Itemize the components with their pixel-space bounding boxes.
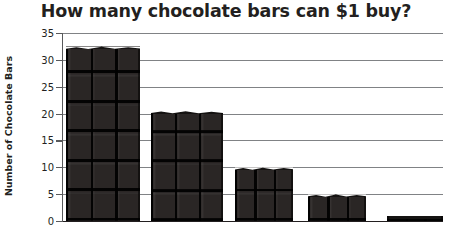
y-axis-label: Number of Chocolate Bars: [3, 56, 14, 196]
plot-area: [63, 33, 443, 221]
y-tick-mark: [56, 33, 63, 34]
y-tick-mark: [56, 167, 63, 168]
bar-right-edge: [138, 46, 140, 221]
chart-title: How many chocolate bars can $1 buy?: [0, 1, 452, 21]
bar-left-edge: [387, 216, 389, 221]
y-tick-mark: [56, 60, 63, 61]
chocolate-texture: [235, 167, 293, 221]
bar-2: [151, 111, 223, 221]
y-tick-label: 20: [14, 108, 54, 119]
y-tick-label: 0: [14, 216, 54, 226]
y-tick-label: 30: [14, 54, 54, 65]
bar-right-edge: [291, 167, 293, 221]
y-tick-mark: [56, 194, 63, 195]
chocolate-texture: [66, 46, 140, 221]
chocolate-texture: [308, 194, 366, 221]
bar-right-edge: [441, 216, 443, 221]
y-tick-label: 15: [14, 135, 54, 146]
chocolate-texture: [151, 111, 223, 221]
bar-left-edge: [151, 111, 153, 221]
bar-3: [235, 167, 293, 221]
y-tick-label: 10: [14, 162, 54, 173]
gridline: [63, 33, 443, 34]
y-tick-mark: [56, 87, 63, 88]
bar-1: [66, 46, 140, 221]
bar-right-edge: [364, 194, 366, 221]
bar-5: [387, 216, 443, 221]
y-tick-mark: [56, 221, 63, 222]
y-tick-label: 35: [14, 28, 54, 39]
chart-container: How many chocolate bars can $1 buy? Numb…: [0, 0, 452, 225]
bar-left-edge: [308, 194, 310, 221]
bar-4: [308, 194, 366, 221]
bar-top-edge: [387, 216, 443, 219]
bar-left-edge: [66, 46, 68, 221]
bar-left-edge: [235, 167, 237, 221]
y-tick-label: 5: [14, 189, 54, 200]
y-tick-label: 25: [14, 81, 54, 92]
y-tick-mark: [56, 114, 63, 115]
bar-right-edge: [221, 111, 223, 221]
axis-baseline: [63, 221, 443, 222]
y-tick-mark: [56, 140, 63, 141]
